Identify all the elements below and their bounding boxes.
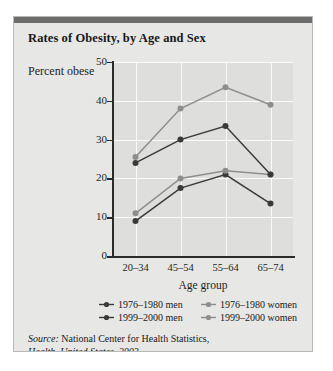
y-tick-mark [107, 256, 112, 257]
legend-item-1999-2000-women: 1999–2000 women [200, 312, 302, 323]
y-tick-mark [107, 140, 112, 141]
data-point [178, 106, 184, 112]
data-point [223, 123, 229, 129]
y-tick-mark [107, 217, 112, 218]
legend-row: 1976–1980 men 1976–1980 women [98, 298, 303, 311]
x-tick-label: 65–74 [245, 262, 297, 273]
y-tick-label: 0 [81, 249, 107, 261]
x-axis-title: Age group [113, 279, 293, 291]
y-tick-label: 10 [81, 210, 107, 222]
source-text: National Center for Health Statistics, [59, 333, 210, 344]
y-tick-mark [107, 62, 112, 63]
legend-item-1999-2000-men: 1999–2000 men [98, 312, 200, 323]
data-point [133, 154, 139, 160]
data-point [223, 168, 229, 174]
y-tick-label: 50 [81, 55, 107, 67]
series-line [136, 87, 271, 157]
y-tick-mark [107, 101, 112, 102]
figure-panel: Rates of Obesity, by Age and Sex Percent… [13, 16, 313, 352]
legend-label: 1999–2000 men [118, 312, 183, 323]
series-line [136, 126, 271, 174]
legend-row: 1999–2000 men 1999–2000 women [98, 311, 303, 324]
data-point [178, 175, 184, 181]
y-tick-label: 40 [81, 94, 107, 106]
legend-marker-icon [200, 312, 217, 323]
legend-marker-icon [200, 299, 217, 310]
data-point [223, 84, 229, 90]
data-point [268, 201, 274, 207]
data-point [133, 160, 139, 166]
series-layer [113, 62, 293, 256]
y-tick-label: 30 [81, 133, 107, 145]
y-tick-label: 20 [81, 171, 107, 183]
data-point [133, 210, 139, 216]
data-point [178, 137, 184, 143]
y-tick-mark [107, 178, 112, 179]
data-point [178, 185, 184, 191]
source-italic-line: Health, United States, 2003. [28, 346, 141, 353]
source-note: Source: National Center for Health Stati… [28, 333, 300, 352]
figure-top-rule [14, 17, 312, 23]
legend-item-1976-1980-women: 1976–1980 women [200, 299, 302, 310]
chart-legend: 1976–1980 men 1976–1980 women 1999–2000 … [98, 298, 303, 324]
legend-item-1976-1980-men: 1976–1980 men [98, 299, 200, 310]
data-point [268, 102, 274, 108]
legend-label: 1976–1980 women [220, 299, 297, 310]
chart-title: Rates of Obesity, by Age and Sex [28, 31, 206, 46]
legend-marker-icon [98, 312, 115, 323]
data-point [268, 172, 274, 178]
legend-marker-icon [98, 299, 115, 310]
legend-label: 1999–2000 women [220, 312, 297, 323]
source-prefix: Source: [28, 333, 59, 344]
data-point [133, 218, 139, 224]
x-axis-line [107, 256, 295, 258]
legend-label: 1976–1980 men [118, 299, 183, 310]
